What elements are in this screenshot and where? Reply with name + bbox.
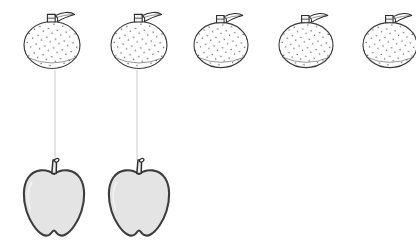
fruit-matching-illustration [0,0,416,247]
worksheet-canvas [0,0,416,247]
